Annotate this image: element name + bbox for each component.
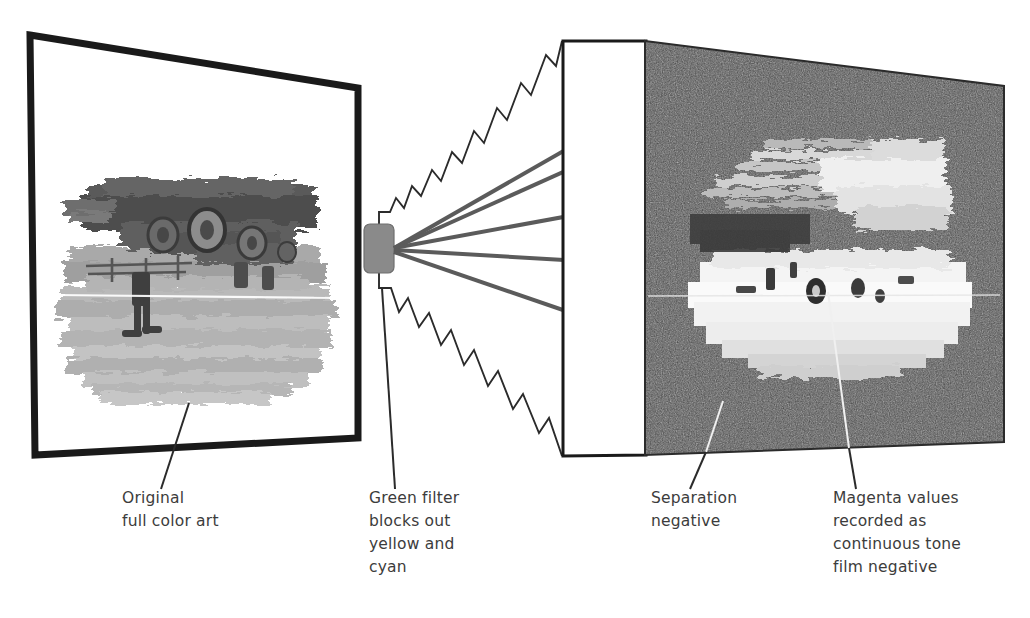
leader-line-separation-negative (690, 452, 706, 489)
negative-image (645, 41, 1004, 455)
film-edge-strip (563, 41, 646, 456)
leader-line-magenta-values (849, 448, 856, 489)
green-filter-block[interactable] (364, 224, 394, 273)
original-art-panel[interactable] (30, 35, 358, 455)
caption-magenta-values: Magenta values recorded as continuous to… (833, 489, 966, 576)
caption-separation-negative: Separation negative (651, 489, 742, 530)
original-artwork-image (55, 178, 340, 404)
negative-horizon-line (648, 295, 1000, 296)
upper-sawtooth-light-path (379, 41, 562, 224)
diagram-stage: Original full color art Green filter blo… (0, 0, 1030, 618)
leader-line-green-filter (382, 288, 395, 489)
caption-green-filter: Green filter blocks out yellow and cyan (369, 489, 464, 576)
color-separation-diagram: Original full color art Green filter blo… (0, 0, 1030, 618)
captions-group: Original full color art Green filter blo… (122, 489, 966, 576)
separation-negative-panel[interactable] (563, 41, 1004, 456)
caption-original-art: Original full color art (122, 489, 219, 530)
